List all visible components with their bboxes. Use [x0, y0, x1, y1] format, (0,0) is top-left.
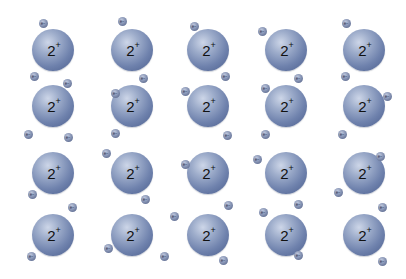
cation-3-2: 2+	[111, 152, 153, 194]
electron-icon: e-	[224, 201, 233, 210]
electron-label: e-	[104, 151, 108, 156]
cation-1-1: 2+	[32, 29, 74, 71]
electron-label: e-	[296, 253, 300, 258]
electron-icon: e-	[63, 79, 72, 88]
electron-icon: e-	[104, 244, 113, 253]
electron-icon: e-	[39, 19, 48, 28]
electron-icon: e-	[64, 133, 73, 142]
electron-label: e-	[120, 19, 124, 24]
ion-charge-label: 2+	[358, 42, 372, 59]
electron-label: e-	[385, 94, 389, 99]
electron-label: e-	[225, 133, 229, 138]
electron-icon: e-	[160, 252, 169, 261]
ion-charge-label: 2+	[47, 165, 61, 182]
cation-4-1: 2+	[32, 214, 74, 256]
ion-charge-label: 2+	[358, 227, 372, 244]
cation-3-1: 2+	[32, 152, 74, 194]
electron-icon: e-	[261, 84, 270, 93]
cation-2-5: 2+	[343, 85, 385, 127]
electron-icon: e-	[338, 130, 347, 139]
ion-charge-label: 2+	[358, 165, 372, 182]
cation-4-2: 2+	[111, 214, 153, 256]
electron-label: e-	[336, 190, 340, 195]
electron-icon: e-	[221, 72, 230, 81]
cation-1-4: 2+	[265, 29, 307, 71]
electron-icon: e-	[28, 190, 37, 199]
cation-2-4: 2+	[265, 85, 307, 127]
cation-1-3: 2+	[187, 29, 229, 71]
electron-icon: e-	[219, 256, 228, 265]
electron-label: e-	[65, 81, 69, 86]
electron-icon: e-	[341, 72, 350, 81]
electron-icon: e-	[141, 195, 150, 204]
electron-label: e-	[255, 157, 259, 162]
ion-charge-label: 2+	[202, 42, 216, 59]
electron-icon: e-	[30, 72, 39, 81]
cation-1-5: 2+	[343, 29, 385, 71]
electron-label: e-	[172, 214, 176, 219]
electron-icon: e-	[68, 203, 77, 212]
ion-charge-label: 2+	[358, 98, 372, 115]
electron-icon: e-	[294, 200, 303, 209]
electron-icon: e-	[111, 129, 120, 138]
electron-icon: e-	[378, 203, 387, 212]
electron-label: e-	[261, 210, 265, 215]
electron-label: e-	[380, 259, 384, 264]
ion-charge-label: 2+	[47, 98, 61, 115]
electron-icon: e-	[170, 212, 179, 221]
electron-label: e-	[296, 202, 300, 207]
electron-icon: e-	[294, 251, 303, 260]
electron-icon: e-	[223, 131, 232, 140]
electron-icon: e-	[24, 130, 33, 139]
electron-label: e-	[162, 254, 166, 259]
cation-1-2: 2+	[111, 29, 153, 71]
electron-icon: e-	[383, 92, 392, 101]
cation-2-1: 2+	[32, 85, 74, 127]
electron-label: e-	[32, 74, 36, 79]
electron-label: e-	[113, 91, 117, 96]
electron-label: e-	[343, 74, 347, 79]
electron-icon: e-	[378, 257, 387, 266]
electron-icon: e-	[102, 149, 111, 158]
cation-3-4: 2+	[265, 152, 307, 194]
electron-label: e-	[30, 192, 34, 197]
electron-label: e-	[143, 197, 147, 202]
electron-label: e-	[378, 154, 382, 159]
electron-label: e-	[113, 131, 117, 136]
ion-charge-label: 2+	[202, 98, 216, 115]
electron-icon: e-	[253, 155, 262, 164]
electron-label: e-	[296, 76, 300, 81]
electron-label: e-	[29, 254, 33, 259]
electron-label: e-	[226, 203, 230, 208]
electron-label: e-	[380, 205, 384, 210]
ion-charge-label: 2+	[126, 227, 140, 244]
electron-icon: e-	[111, 89, 120, 98]
electron-label: e-	[223, 74, 227, 79]
cation-2-3: 2+	[187, 85, 229, 127]
ion-charge-label: 2+	[280, 42, 294, 59]
electron-icon: e-	[181, 87, 190, 96]
electron-icon: e-	[261, 130, 270, 139]
electron-label: e-	[192, 24, 196, 29]
electron-label: e-	[106, 246, 110, 251]
electron-icon: e-	[294, 74, 303, 83]
electron-label: e-	[70, 205, 74, 210]
electron-icon: e-	[118, 17, 127, 26]
electron-icon: e-	[181, 160, 190, 169]
electron-label: e-	[221, 258, 225, 263]
electron-label: e-	[183, 162, 187, 167]
electron-label: e-	[263, 86, 267, 91]
electron-icon: e-	[27, 252, 36, 261]
ion-charge-label: 2+	[202, 165, 216, 182]
electron-label: e-	[66, 135, 70, 140]
ion-charge-label: 2+	[126, 98, 140, 115]
electron-label: e-	[344, 21, 348, 26]
ion-charge-label: 2+	[280, 98, 294, 115]
electron-icon: e-	[376, 152, 385, 161]
electron-label: e-	[340, 132, 344, 137]
electron-label: e-	[260, 29, 264, 34]
electron-icon: e-	[342, 19, 351, 28]
electron-label: e-	[41, 21, 45, 26]
electron-icon: e-	[139, 74, 148, 83]
electron-label: e-	[141, 76, 145, 81]
